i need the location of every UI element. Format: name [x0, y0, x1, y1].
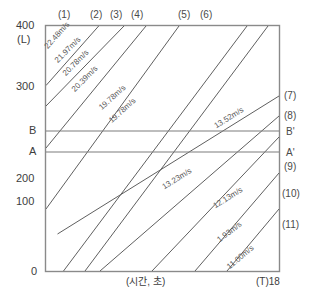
x-axis-caption: (시간, 초)	[126, 276, 165, 287]
top-label-3: (3)	[110, 9, 122, 20]
y-tick-400: 400	[16, 20, 34, 31]
top-label-2: (2)	[90, 9, 102, 20]
line-3	[46, 26, 146, 148]
top-label-4: (4)	[131, 9, 143, 20]
right-label-11: (11)	[282, 219, 299, 230]
right-label-10: (10)	[282, 188, 300, 199]
line-6	[85, 26, 268, 271]
right-label-8: (8)	[284, 110, 296, 121]
y-tick-B: B	[29, 125, 36, 136]
top-label-5: (5)	[178, 9, 190, 20]
y-tick-0: 0	[31, 266, 37, 277]
right-label-B-prime: B'	[286, 126, 295, 137]
chart-root: 400 (L) 300 B A 200 100 0 (1) (2) (3) (4…	[0, 0, 311, 305]
top-label-6: (6)	[200, 9, 212, 20]
right-label-A-prime: A'	[286, 147, 295, 158]
x-axis-end-label: (T)18	[256, 276, 280, 287]
top-label-1: (1)	[58, 9, 70, 20]
y-tick-A: A	[29, 146, 36, 157]
right-label-7: (7)	[284, 90, 296, 101]
y-axis-unit: (L)	[17, 34, 30, 45]
y-tick-100: 100	[16, 196, 34, 207]
y-tick-200: 200	[16, 173, 34, 184]
y-tick-300: 300	[16, 81, 34, 92]
right-label-9: (9)	[284, 161, 296, 172]
line-7	[58, 96, 280, 234]
